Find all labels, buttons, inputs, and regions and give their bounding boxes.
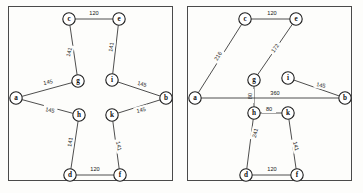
graph-panel-left: 120141145145141145145141141120 abcdefghi… bbox=[0, 0, 181, 193]
graph-canvas-left: 120141145145141145145141141120 abcdefghi… bbox=[0, 0, 181, 193]
node-label-g: g bbox=[252, 76, 256, 84]
graph-node-g[interactable]: g bbox=[72, 75, 84, 87]
graph-node-c[interactable]: c bbox=[63, 13, 75, 25]
node-label-b: b bbox=[343, 94, 347, 102]
graph-node-h[interactable]: h bbox=[248, 107, 260, 119]
graph-panel-right: 1202161728036080145241141120 abcdefghik bbox=[182, 0, 363, 193]
node-label-a: a bbox=[14, 94, 18, 102]
node-label-h: h bbox=[77, 111, 81, 119]
node-label-d: d bbox=[244, 171, 248, 179]
graph-node-g[interactable]: g bbox=[248, 74, 260, 86]
graph-node-f[interactable]: f bbox=[291, 169, 303, 181]
graph-node-b[interactable]: b bbox=[160, 92, 172, 104]
graph-node-d[interactable]: d bbox=[240, 169, 252, 181]
node-label-i: i bbox=[111, 76, 113, 84]
graph-node-i[interactable]: i bbox=[282, 72, 294, 84]
figure-root: 120141145145141145145141141120 abcdefghi… bbox=[0, 0, 363, 193]
graph-node-a[interactable]: a bbox=[189, 92, 201, 104]
node-label-h: h bbox=[252, 109, 256, 117]
graph-node-a[interactable]: a bbox=[10, 92, 22, 104]
node-label-e: e bbox=[117, 15, 120, 23]
graph-node-h[interactable]: h bbox=[73, 109, 85, 121]
node-label-k: k bbox=[110, 111, 114, 119]
graph-canvas-right: 1202161728036080145241141120 abcdefghik bbox=[182, 0, 363, 193]
edge-weight-h-k: 80 bbox=[266, 106, 272, 112]
node-label-a: a bbox=[193, 94, 197, 102]
edge-weight-d-f: 120 bbox=[267, 166, 276, 172]
edge-weight-d-f: 120 bbox=[90, 166, 99, 172]
edge-weight-c-e: 120 bbox=[267, 10, 276, 16]
graph-node-e[interactable]: e bbox=[290, 13, 302, 25]
node-label-e: e bbox=[294, 15, 297, 23]
graph-node-k[interactable]: k bbox=[282, 107, 294, 119]
node-label-k: k bbox=[286, 109, 290, 117]
graph-node-b[interactable]: b bbox=[339, 92, 351, 104]
edge-weight-a-b: 360 bbox=[270, 90, 279, 96]
graph-node-e[interactable]: e bbox=[113, 13, 125, 25]
graph-node-i[interactable]: i bbox=[106, 74, 118, 86]
graph-node-d[interactable]: d bbox=[64, 169, 76, 181]
node-label-d: d bbox=[68, 171, 72, 179]
node-label-b: b bbox=[164, 94, 168, 102]
graph-node-c[interactable]: c bbox=[239, 13, 251, 25]
edge-weight-c-e: 120 bbox=[89, 10, 98, 16]
graph-node-k[interactable]: k bbox=[106, 109, 118, 121]
graph-node-f[interactable]: f bbox=[114, 169, 126, 181]
node-label-g: g bbox=[76, 77, 80, 85]
node-label-i: i bbox=[287, 74, 289, 82]
